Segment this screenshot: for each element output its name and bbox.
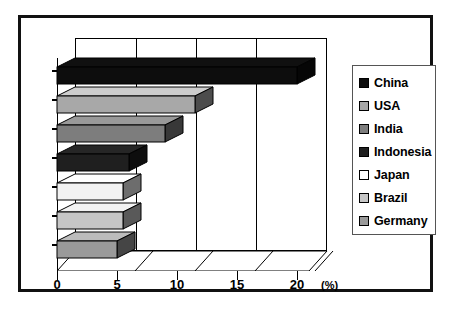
legend-item-label: Indonesia — [374, 145, 431, 159]
bar-shape — [57, 145, 149, 173]
bar-top-face — [57, 58, 315, 67]
chart-frame-border: 0 5 10 15 20 (%) ChinaUSAIndiaIndonesiaJ… — [18, 15, 433, 292]
bar-germany[interactable] — [57, 232, 135, 249]
legend-item[interactable]: India — [359, 118, 435, 140]
bar-top-face — [57, 87, 213, 96]
bar-china[interactable] — [57, 58, 315, 75]
x-tick-label-5: 5 — [102, 277, 132, 292]
bar-front-face — [57, 67, 297, 84]
bar-usa[interactable] — [57, 87, 213, 104]
legend-item[interactable]: Indonesia — [359, 141, 435, 163]
legend-swatch-icon — [359, 124, 369, 134]
legend-swatch-icon — [359, 193, 369, 203]
chart-legend: ChinaUSAIndiaIndonesiaJapanBrazilGermany — [352, 65, 436, 235]
x-tick-label-0: 0 — [42, 277, 72, 292]
x-tick-label-15: 15 — [222, 277, 252, 292]
bar-front-face — [57, 96, 195, 113]
bar-shape — [57, 203, 143, 231]
chart-figure: 0 5 10 15 20 (%) ChinaUSAIndiaIndonesiaJ… — [0, 0, 453, 309]
legend-swatch-icon — [359, 101, 369, 111]
bar-front-face — [57, 183, 123, 200]
bar-front-face — [57, 154, 129, 171]
legend-item[interactable]: China — [359, 72, 435, 94]
legend-item-label: Brazil — [374, 191, 407, 205]
bar-front-face — [57, 212, 123, 229]
legend-swatch-icon — [359, 78, 369, 88]
bar-shape — [57, 58, 317, 86]
bar-shape — [57, 232, 137, 260]
legend-item-label: India — [374, 122, 403, 136]
x-axis-unit-label: (%) — [321, 279, 338, 291]
x-tick-label-20: 20 — [282, 277, 312, 292]
bar-front-face — [57, 125, 165, 142]
legend-item-label: USA — [374, 99, 400, 113]
legend-swatch-icon — [359, 216, 369, 226]
plot-area — [57, 38, 347, 273]
bar-front-face — [57, 241, 117, 258]
x-tick-label-10: 10 — [162, 277, 192, 292]
legend-item[interactable]: USA — [359, 95, 435, 117]
bar-top-face — [57, 116, 183, 125]
legend-swatch-icon — [359, 170, 369, 180]
legend-swatch-icon — [359, 147, 369, 157]
bar-indonesia[interactable] — [57, 145, 147, 162]
legend-item[interactable]: Japan — [359, 164, 435, 186]
legend-item[interactable]: Germany — [359, 210, 435, 232]
legend-item-label: China — [374, 76, 408, 90]
bar-shape — [57, 174, 143, 202]
bar-india[interactable] — [57, 116, 183, 133]
bar-shape — [57, 87, 215, 115]
bar-brazil[interactable] — [57, 203, 141, 220]
legend-item-label: Germany — [374, 214, 428, 228]
legend-item-label: Japan — [374, 168, 410, 182]
legend-item[interactable]: Brazil — [359, 187, 435, 209]
bar-shape — [57, 116, 185, 144]
bar-japan[interactable] — [57, 174, 141, 191]
